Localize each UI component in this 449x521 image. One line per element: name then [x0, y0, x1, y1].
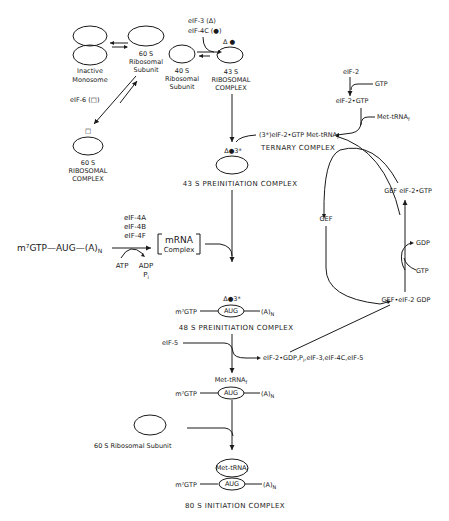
label-60s-complex-3: COMPLEX — [72, 175, 104, 183]
adp-label: ADP — [139, 262, 153, 270]
cap-label-3: m⁷GTP — [175, 481, 197, 489]
label-40s: 40 S — [175, 67, 189, 75]
gtp-uptake-arrow — [404, 258, 416, 270]
ribosome-40s-subunit: 40 S Ribosomal Subunit — [165, 45, 199, 91]
inactive-monosome-label: Inactive — [77, 67, 103, 75]
ternary-complex-caption: TERNARY COMPLEX — [260, 144, 335, 152]
eif2-gtp-formation: eIF-2 GTP eIF-2•GTP Met-tRNAf — [335, 68, 410, 137]
ribosome-43s-preinit-icon — [216, 156, 248, 174]
released-factors: eIF-2•GDP,Pi,eIF-3,eIF-4C,eIF-5 — [263, 354, 363, 363]
label-43s-3: COMPLEX — [215, 84, 247, 92]
eif2-label: eIF-2 — [343, 68, 359, 76]
init-80s: Met-tRNAf m⁷GTP AUG (A)N 80 S INITIATION… — [175, 459, 285, 510]
factor-eif4f: eIF-4F — [124, 232, 145, 240]
preinit-43s: Δ●3* 43 S PREINITIATION COMPLEX — [183, 147, 298, 188]
ribosome-60s-icon — [128, 26, 164, 46]
preinit-43s-label: 43 S PREINITIATION COMPLEX — [183, 180, 298, 188]
gdp-label: GDP — [416, 239, 430, 247]
ribosome-large-icon — [73, 26, 107, 46]
factor-eif4c: eIF-4C (●) — [188, 27, 221, 35]
label-60s-complex: 60 S — [81, 159, 95, 167]
ribosome-60s-free: 60 S Ribosomal Subunit — [94, 400, 233, 450]
preinit-43s-marks: Δ●3* — [224, 147, 242, 155]
init-80s-label: 80 S INITIATION COMPLEX — [185, 502, 285, 510]
inactive-monosome-label-2: Monosome — [72, 76, 107, 84]
ribosome-43s-icon — [217, 47, 243, 63]
intermediate-complex: Met-tRNAf m⁷GTP AUG (A)N — [175, 376, 274, 399]
arc-gef-to-gdp-complex — [326, 226, 388, 304]
ribosome-60s-free-icon — [134, 415, 166, 435]
preinit-48s: Δ●3* m⁷GTP AUG (A)N 48 S PREINITIATION C… — [175, 295, 293, 332]
ribosome-60s-complex-icon — [73, 137, 103, 155]
ternary-complex: (3*)eIF-2•GTP Met-tRNAf TERNARY COMPLEX — [236, 131, 339, 152]
init-80s-trna: Met-tRNAf — [216, 464, 249, 473]
preinit-48s-label: 48 S PREINITIATION COMPLEX — [179, 324, 294, 332]
inactive-monosome: Inactive Monosome — [72, 26, 107, 84]
arc-gef-release — [324, 148, 398, 215]
translation-initiation-diagram: Inactive Monosome 60 S Ribosomal Subunit… — [0, 0, 449, 521]
gef-label: GEF — [320, 215, 333, 223]
label-60s-2: Ribosomal — [129, 58, 163, 66]
mrna-complex-label: mRNA — [165, 235, 194, 245]
eif2-gtp-label: eIF-2•GTP — [336, 97, 369, 105]
mrna-activation: m⁷GTP—AUG—(A)N eIF-4A eIF-4B eIF-4F ATP … — [17, 214, 232, 280]
preinit-48s-marks: Δ●3* — [223, 295, 241, 303]
atp-label: ATP — [116, 262, 129, 270]
factor-eif4b: eIF-4B — [124, 223, 146, 231]
ternary-complex-label: (3*)eIF-2•GTP Met-tRNAf — [259, 131, 339, 140]
pi-label: Pi — [143, 271, 149, 280]
label-60s-complex-2: RIBOSOMAL — [69, 167, 108, 175]
gtp-label-2: GTP — [416, 267, 429, 275]
equilibrium-arrows-1 — [110, 41, 128, 49]
polya-tail-3: (A)N — [263, 481, 277, 490]
aug-codon-3: AUG — [225, 480, 239, 488]
label-43s-2: RIBOSOMAL — [212, 76, 251, 84]
gdp-release-arrow — [401, 243, 412, 270]
cap-label-2: m⁷GTP — [175, 390, 197, 398]
ribosome-60s-free-label: 60 S Ribosomal Subunit — [94, 442, 172, 450]
complex-60s-ribosomal: □ 60 S RIBOSOMAL COMPLEX — [69, 127, 108, 183]
mrna-label: m⁷GTP—AUG—(A)N — [17, 243, 102, 254]
intermediate-trna: Met-tRNAf — [215, 376, 248, 385]
aug-codon: AUG — [224, 307, 238, 315]
label-60s: 60 S — [139, 50, 153, 58]
aug-codon-2: AUG — [224, 389, 238, 397]
line-to-gef-eif2-gdp — [290, 305, 390, 352]
arc-ternary-to-gef — [336, 136, 400, 215]
gef-eif2-gdp-label: GEF•eIF-2 GDP — [382, 296, 431, 304]
gtp-label: GTP — [375, 80, 388, 88]
polya-tail: (A)N — [261, 308, 275, 317]
label-40s-3: Subunit — [170, 83, 195, 91]
met-trna-label: Met-tRNAf — [377, 113, 410, 122]
polya-tail-2: (A)N — [261, 390, 275, 399]
factor-eif6: eIF-6 (□) — [70, 96, 99, 104]
label-43s: 43 S — [224, 68, 238, 76]
eif5-label: eIF-5 — [162, 339, 178, 347]
cap-label: m⁷GTP — [175, 308, 197, 316]
equilibrium-arrows-2 — [197, 37, 222, 58]
ribosome-small-icon — [73, 45, 107, 65]
bound-factor-marks: Δ ● — [223, 38, 236, 46]
factor-eif4a: eIF-4A — [124, 214, 146, 222]
ternary-join-arrow — [236, 135, 256, 142]
complex-43s-ribosomal: Δ ● 43 S RIBOSOMAL COMPLEX — [212, 38, 251, 92]
factor-eif3: eIF-3 (Δ) — [188, 17, 216, 25]
label-40s-2: Ribosomal — [165, 75, 199, 83]
label-60s-3: Subunit — [134, 66, 159, 74]
ribosome-40s-icon — [169, 45, 195, 63]
gef-eif2-gtp-label: GEF eIF-2•GTP — [384, 187, 432, 195]
mrna-complex-label-2: Complex — [164, 246, 195, 254]
eif6-mark: □ — [85, 127, 91, 135]
ribosome-60s-subunit: 60 S Ribosomal Subunit — [128, 26, 164, 74]
